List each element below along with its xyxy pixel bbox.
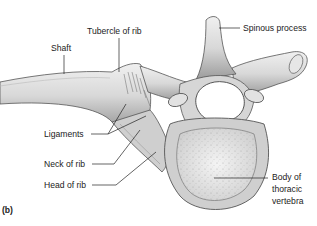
body-label-line2: thoracic bbox=[272, 183, 304, 195]
label-ligaments: Ligaments bbox=[44, 129, 84, 139]
label-neck-of-rib: Neck of rib bbox=[44, 159, 85, 169]
label-shaft: Shaft bbox=[51, 43, 71, 53]
label-tubercle-of-rib: Tubercle of rib bbox=[87, 26, 142, 36]
label-spinous-process: Spinous process bbox=[243, 23, 307, 33]
label-body-of-thoracic-vertebra: Body of thoracic vertebra bbox=[272, 171, 304, 207]
rib-vertebra-illustration bbox=[0, 0, 317, 226]
vertebral-canal bbox=[196, 82, 245, 122]
panel-label: (b) bbox=[2, 205, 13, 215]
rib-neck-head bbox=[112, 110, 169, 172]
body-label-line1: Body of bbox=[272, 171, 304, 183]
vertebral-body bbox=[165, 118, 269, 210]
body-label-line3: vertebra bbox=[272, 195, 304, 207]
label-head-of-rib: Head of rib bbox=[44, 180, 86, 190]
